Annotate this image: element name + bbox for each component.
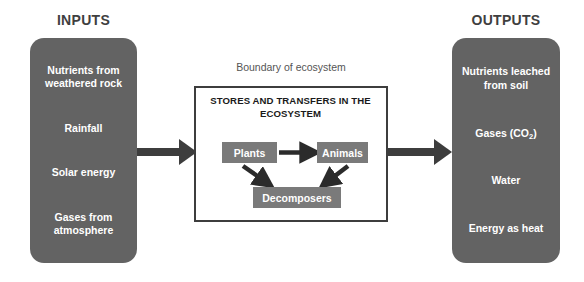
- output-gases-subscript: 2: [529, 132, 533, 141]
- ecosystem-box-title: STORES AND TRANSFERS IN THE ECOSYSTEM: [204, 95, 377, 121]
- outputs-panel: Nutrients leached from soil Gases (CO2) …: [452, 38, 560, 263]
- output-item-nutrients-leached: Nutrients leached from soil: [456, 65, 556, 92]
- input-item-gases: Gases from atmosphere: [34, 211, 133, 238]
- node-decomposers[interactable]: Decomposers: [253, 187, 341, 208]
- input-item-solar-energy: Solar energy: [34, 166, 133, 179]
- output-flow-arrow-icon: [388, 139, 452, 165]
- inputs-heading: INPUTS: [30, 12, 137, 28]
- output-item-water: Water: [456, 174, 556, 187]
- input-item-nutrients: Nutrients from weathered rock: [34, 64, 133, 91]
- boundary-of-ecosystem-label: Boundary of ecosystem: [194, 61, 388, 73]
- node-animals[interactable]: Animals: [317, 142, 368, 163]
- output-item-energy-as-heat: Energy as heat: [456, 222, 556, 235]
- arrow-shaft: [388, 148, 436, 156]
- arrow-shaft: [137, 148, 181, 156]
- output-item-gases-co2: Gases (CO2): [456, 127, 556, 140]
- outputs-heading: OUTPUTS: [452, 12, 560, 28]
- inputs-panel: Nutrients from weathered rock Rainfall S…: [30, 38, 137, 263]
- ecosystem-diagram: INPUTS Nutrients from weathered rock Rai…: [0, 0, 584, 282]
- input-item-rainfall: Rainfall: [34, 122, 133, 135]
- output-gases-text: Gases (CO: [475, 127, 529, 139]
- node-plants[interactable]: Plants: [222, 142, 277, 163]
- output-gases-suffix: ): [533, 127, 537, 139]
- input-flow-arrow-icon: [137, 139, 197, 165]
- arrow-head: [434, 139, 452, 165]
